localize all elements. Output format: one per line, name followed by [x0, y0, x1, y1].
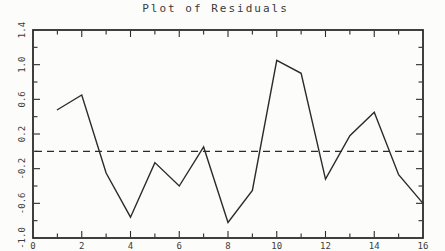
residuals-line-chart: 0246810121416-1.0-0.6-0.20.20.61.01.4: [0, 0, 445, 251]
x-tick-label: 4: [128, 241, 133, 251]
x-tick-label: 8: [225, 241, 230, 251]
x-tick-label: 0: [30, 241, 35, 251]
x-tick-label: 16: [418, 241, 429, 251]
y-tick-label: -1.0: [17, 227, 27, 249]
x-tick-label: 2: [79, 241, 84, 251]
x-tick-label: 14: [369, 241, 380, 251]
y-tick-label: -0.2: [17, 158, 27, 180]
y-tick-label: -0.6: [17, 192, 27, 214]
y-tick-label: 1.4: [17, 22, 27, 38]
x-tick-label: 6: [177, 241, 182, 251]
residuals-series-line: [57, 60, 423, 222]
y-tick-label: 1.0: [17, 57, 27, 73]
y-tick-label: 0.2: [17, 126, 27, 142]
x-tick-label: 12: [320, 241, 331, 251]
plot-frame: [33, 30, 423, 238]
x-tick-label: 10: [271, 241, 282, 251]
plot-window: Plot of Residuals 0246810121416-1.0-0.6-…: [0, 0, 445, 251]
y-tick-label: 0.6: [17, 91, 27, 107]
